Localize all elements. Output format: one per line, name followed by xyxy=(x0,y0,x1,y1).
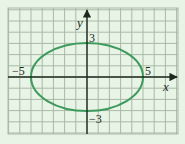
label-x-neg-5: −5 xyxy=(12,64,25,78)
label-y-neg-3: −3 xyxy=(89,112,102,126)
x-axis-label: x xyxy=(162,79,169,94)
coordinate-plane: y x −5 5 3 −3 xyxy=(0,0,185,144)
label-x-pos-5: 5 xyxy=(145,64,151,78)
label-y-pos-3: 3 xyxy=(89,31,95,45)
y-axis-label: y xyxy=(75,15,83,30)
